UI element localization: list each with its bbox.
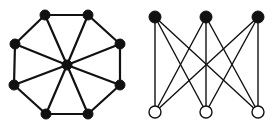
graph-figure <box>0 0 274 125</box>
diagram-canvas <box>0 0 274 125</box>
node-b3-hollow <box>252 106 264 118</box>
bipartite-edges <box>155 17 258 112</box>
node-b1-hollow <box>149 106 161 118</box>
edge-b-c <box>88 15 120 44</box>
node-d-filled <box>115 80 125 90</box>
wheel-octagon-graph <box>9 10 125 119</box>
node-f-filled <box>41 109 51 119</box>
node-a-filled <box>40 10 50 20</box>
node-e-filled <box>83 109 93 119</box>
complete-bipartite-graph <box>149 11 264 118</box>
node-c-filled <box>115 39 125 49</box>
node-t2-filled <box>200 11 212 23</box>
wheel-nodes <box>9 10 125 119</box>
edge-g-h <box>14 44 15 85</box>
edge-f-g <box>14 85 46 114</box>
node-b-filled <box>83 10 93 20</box>
node-t1-filled <box>149 11 161 23</box>
node-hub-filled <box>62 60 72 70</box>
node-g-filled <box>9 80 19 90</box>
edge-h-a <box>15 15 45 44</box>
node-t3-filled <box>252 11 264 23</box>
node-h-filled <box>10 39 20 49</box>
edge-d-e <box>88 85 120 114</box>
node-b2-hollow <box>200 106 212 118</box>
